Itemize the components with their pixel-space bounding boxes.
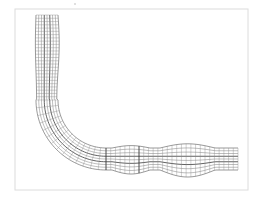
- mesh-diagram: [0, 0, 261, 197]
- top-marker-dot: [74, 3, 76, 5]
